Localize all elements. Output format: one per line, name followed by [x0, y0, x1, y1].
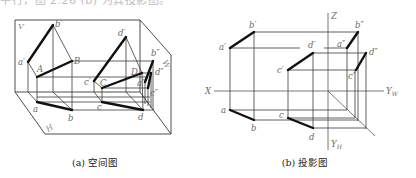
point-label-a-double-prime: a″ — [137, 78, 146, 88]
segment-c-d-w-projection — [356, 53, 366, 70]
line-segments-thick — [230, 32, 366, 128]
point-label-a: a — [221, 105, 226, 115]
projector-line — [28, 62, 37, 77]
axis-label-yh-sub: H — [336, 143, 343, 150]
point-label-a-prime: a′ — [18, 57, 25, 67]
point-label-c: c — [279, 110, 284, 120]
axis-label-yw: YW — [386, 86, 399, 97]
point-label-d-prime: d′ — [308, 40, 315, 50]
axis-label-z: Z — [330, 11, 338, 21]
segment-c-d-h-projection — [288, 118, 313, 128]
point-label-d: d — [138, 112, 144, 122]
point-label-b-double-prime: b″ — [355, 20, 364, 30]
point-label-c-prime: c′ — [84, 77, 91, 87]
point-label-c: c — [97, 102, 102, 112]
point-label-a: a — [33, 104, 38, 114]
segment-c-d-v-projection — [288, 53, 313, 70]
segment-a-b-h-projection — [230, 110, 254, 120]
point-label-c-double-prime: c″ — [348, 71, 357, 81]
segment-a-b-v-projection — [28, 25, 53, 62]
point-label-C: C — [100, 78, 107, 88]
point-label-b: b — [251, 123, 256, 133]
point-label-a-prime: a′ — [219, 42, 226, 52]
projection-lines-cd — [94, 37, 153, 110]
point-label-d-double-prime: d″ — [155, 67, 164, 77]
point-label-b-double-prime: b″ — [151, 48, 160, 58]
point-label-a-double-prime: a″ — [337, 39, 346, 49]
point-label-D: D — [130, 67, 138, 77]
point-label-B: B — [73, 56, 80, 66]
projection-lines — [230, 32, 367, 129]
point-label-d-prime: d′ — [118, 28, 125, 38]
point-label-c-double-prime: c″ — [150, 88, 159, 98]
point-label-b-prime: b′ — [249, 20, 256, 30]
figure-a-spatial-view: V H W b′ a′ A B a b d′ c′ C D c d b″ d″ … — [15, 19, 172, 168]
h-plane-left-edge — [15, 92, 45, 134]
figure-b-caption: (b) 投影图 — [282, 157, 329, 168]
segment-a-b-v-projection — [230, 32, 254, 48]
point-label-d-double-prime: d″ — [369, 47, 378, 57]
segment-a-b-w-projection — [347, 32, 358, 48]
point-label-b: b — [68, 113, 73, 123]
miter-45-degree-line — [328, 91, 375, 136]
point-label-d: d — [309, 132, 315, 142]
projector-line — [28, 92, 37, 102]
axis-label-x: X — [204, 86, 212, 96]
figure-b-projection-view: X Z YW YH — [204, 11, 399, 168]
figure-canvas: V H W b′ a′ A B a b d′ c′ C D c d b″ d″ … — [0, 0, 416, 178]
segment-c-d-v-projection — [94, 37, 126, 81]
point-label-A: A — [36, 64, 43, 74]
point-label-c-prime: c′ — [277, 65, 284, 75]
segment-a-b-h-projection — [37, 102, 72, 110]
h-plane-label: H — [43, 122, 56, 135]
axis-label-yw-sub: W — [392, 90, 399, 97]
figure-a-caption: (a) 空间图 — [72, 157, 118, 168]
v-plane-label: V — [18, 22, 25, 31]
axis-label-yh: YH — [331, 139, 343, 150]
point-label-b-prime: b′ — [55, 19, 62, 29]
projector-line — [53, 25, 72, 61]
